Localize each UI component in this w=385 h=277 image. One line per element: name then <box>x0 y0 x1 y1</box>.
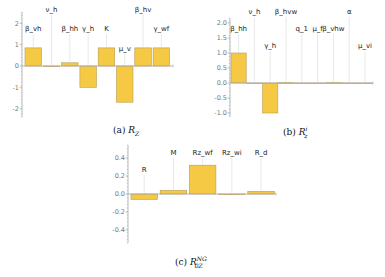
chart-b-bar-label: β_vhw <box>322 25 345 33</box>
chart-a-bar <box>153 48 170 66</box>
chart-b: 2.01.51.00.50.0-0.5-1.0β_hhν_hγ_hβ_hvwq_… <box>214 8 373 117</box>
chart-b-bar-label: γ_h <box>264 42 276 50</box>
caption-b-prefix: (b) <box>283 127 299 137</box>
chart-c-bar <box>248 191 274 194</box>
chart-c-bar-label: Rz_wf <box>193 149 214 157</box>
chart-b-bar-label: α <box>347 8 352 16</box>
caption-c: (c) RNG0Z <box>175 255 203 269</box>
chart-a-bar-label: γ_wf <box>153 25 169 33</box>
caption-a-symbol: R <box>128 125 135 135</box>
chart-a-y-tick-label: 0 <box>15 62 19 70</box>
chart-c-bar <box>189 165 216 194</box>
chart-c-bar-label: Rz_wi <box>222 149 242 157</box>
chart-c-y-tick-label: 0.0 <box>115 190 125 198</box>
chart-a-bar-label: β_hh <box>61 25 78 33</box>
chart-b-y-tick-label: 0.5 <box>217 64 227 72</box>
chart-a-bar-label: ν_h <box>46 6 58 14</box>
chart-b-y-tick-label: 0.0 <box>217 79 227 87</box>
chart-c-bar-label: R <box>142 166 147 174</box>
caption-b: (b) Riz <box>283 125 308 139</box>
chart-a-bar <box>117 66 134 102</box>
chart-b-y-tick-label: 1.5 <box>217 34 227 42</box>
chart-a-bar <box>25 48 42 66</box>
caption-a: (a) RZ <box>113 125 139 137</box>
chart-b-bar-label: q_1 <box>296 25 308 33</box>
chart-a-bar-label: γ_h <box>82 25 94 33</box>
chart-a-bar <box>80 66 97 87</box>
chart-a: 210-1-2β_vhν_hβ_hhγ_hKμ_vβ_hvγ_wf <box>13 6 173 117</box>
chart-b-bar-label: ν_h <box>248 8 260 16</box>
chart-a-y-tick-label: 1 <box>15 41 19 49</box>
chart-b-bar-label: β_hvw <box>275 8 298 16</box>
chart-c-bar <box>160 190 187 194</box>
chart-c-y-tick-label: 0.4 <box>115 154 125 162</box>
chart-b-y-tick-label: -1.0 <box>214 109 227 117</box>
chart-c-y-tick-label: 0.2 <box>115 172 125 180</box>
chart-a-y-tick-label: -1 <box>13 84 19 92</box>
chart-c-bar <box>131 194 158 199</box>
caption-b-sub: z <box>304 132 307 139</box>
chart-a-bar-label: β_vh <box>25 25 42 33</box>
chart-c-bar-label: R_d <box>255 149 268 157</box>
chart-a-bar-label: β_hv <box>135 6 152 14</box>
chart-b-bar-label: β_hh <box>230 25 247 33</box>
chart-b-y-tick-label: 2.0 <box>217 19 227 27</box>
chart-a-bar-label: μ_v <box>119 45 131 53</box>
figure-canvas: 210-1-2β_vhν_hβ_hhγ_hKμ_vβ_hvγ_wf 2.01.5… <box>0 0 385 277</box>
chart-a-bar <box>135 48 152 66</box>
chart-c-bar-label: M <box>170 149 176 157</box>
chart-a-y-tick-label: 2 <box>15 20 19 28</box>
caption-a-prefix: (a) <box>113 125 128 135</box>
chart-c: 0.40.20.0-0.2-0.4RMRz_wfRz_wiR_d <box>112 145 276 243</box>
chart-a-bar <box>98 48 115 66</box>
chart-c-y-tick-label: -0.2 <box>112 208 125 216</box>
caption-c-sub: 0Z <box>195 262 203 269</box>
caption-a-sub: Z <box>135 130 139 137</box>
chart-b-y-tick-label: 1.0 <box>217 49 227 57</box>
chart-a-bar-label: K <box>104 25 109 33</box>
chart-b-y-tick-label: -0.5 <box>214 94 227 102</box>
chart-a-y-tick-label: -2 <box>13 105 19 113</box>
chart-a-bar <box>62 63 79 66</box>
caption-c-prefix: (c) <box>175 257 190 267</box>
chart-b-bar <box>263 83 278 113</box>
chart-b-bar <box>231 53 246 83</box>
chart-c-y-tick-label: -0.4 <box>112 226 125 234</box>
chart-b-bar-label: μ_vi <box>358 42 372 50</box>
